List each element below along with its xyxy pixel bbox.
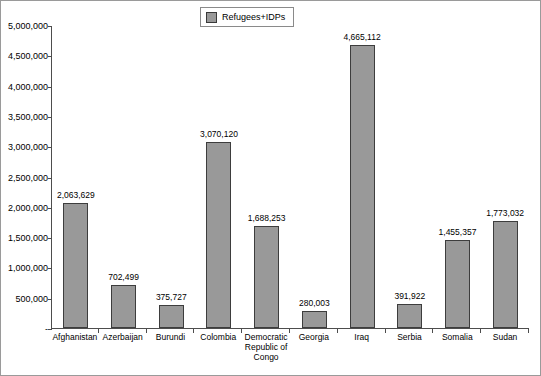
legend-label-refugees-idps: Refugees+IDPs <box>222 12 285 22</box>
bar[interactable] <box>493 221 518 328</box>
bar-slot: 702,499 <box>100 26 148 328</box>
bar-value-label: 1,773,032 <box>486 208 524 218</box>
bar-slot: 2,063,629 <box>52 26 100 328</box>
y-axis-tick-label: 2,500,000 <box>8 173 52 183</box>
bar-slot: 1,773,032 <box>481 26 529 328</box>
bar-slot: 375,727 <box>147 26 195 328</box>
y-axis-tick-label: 4,500,000 <box>8 51 52 61</box>
x-axis-tick-label: Colombia <box>194 332 242 362</box>
x-axis-tick-label: Sudan <box>481 332 529 362</box>
bar-slot: 1,688,253 <box>243 26 291 328</box>
bar-value-label: 2,063,629 <box>57 190 95 200</box>
x-axis-tick-label: Somalia <box>433 332 481 362</box>
bar-value-label: 1,688,253 <box>248 213 286 223</box>
x-axis-labels: AfghanistanAzerbaijanBurundiColombiaDemo… <box>51 332 529 362</box>
bar-slot: 280,003 <box>291 26 339 328</box>
x-axis-tick-label: Afghanistan <box>51 332 99 362</box>
y-axis-tick-label: 5,000,000 <box>8 21 52 31</box>
bar[interactable] <box>111 285 136 328</box>
y-axis-tick-label: 1,000,000 <box>8 263 52 273</box>
bar-slot: 391,922 <box>386 26 434 328</box>
bar-value-label: 4,665,112 <box>343 32 380 42</box>
y-axis-tick-label: 4,000,000 <box>8 82 52 92</box>
legend-swatch-refugees-idps <box>206 12 217 23</box>
bar[interactable] <box>159 305 184 328</box>
bar-value-label: 3,070,120 <box>200 129 238 139</box>
bar[interactable] <box>63 203 88 328</box>
bar-value-label: 375,727 <box>156 292 187 302</box>
chart-legend: Refugees+IDPs <box>200 7 294 27</box>
x-axis-tick-label: Burundi <box>147 332 195 362</box>
y-axis-tick-label: 1,500,000 <box>8 233 52 243</box>
x-axis-tick-label: Democratic Republic of Congo <box>242 332 290 362</box>
x-axis-tick-label: Iraq <box>338 332 386 362</box>
bar-slot: 4,665,112 <box>338 26 386 328</box>
bar-series-refugees-idps: 2,063,629702,499375,7273,070,1201,688,25… <box>52 26 529 328</box>
y-axis-tick-label: 3,000,000 <box>8 142 52 152</box>
y-axis-tick-label: 500,000 <box>15 294 52 304</box>
bar-value-label: 391,922 <box>394 291 425 301</box>
bar[interactable] <box>397 304 422 328</box>
x-axis-tick-label: Azerbaijan <box>99 332 147 362</box>
chart-container: Refugees+IDPs 5,000,0004,500,0004,000,00… <box>0 0 541 376</box>
plot-area: 5,000,0004,500,0004,000,0003,500,0003,00… <box>51 26 529 329</box>
x-axis-tick-label: Serbia <box>386 332 434 362</box>
bar[interactable] <box>254 226 279 328</box>
bar-slot: 3,070,120 <box>195 26 243 328</box>
bar-value-label: 280,003 <box>299 298 330 308</box>
bar-value-label: 1,455,357 <box>439 227 477 237</box>
y-axis-tick-label: 2,000,000 <box>8 203 52 213</box>
bar[interactable] <box>206 142 231 328</box>
bar[interactable] <box>302 311 327 328</box>
y-axis-tick-label: 3,500,000 <box>8 112 52 122</box>
bar-slot: 1,455,357 <box>434 26 482 328</box>
bar[interactable] <box>445 240 470 328</box>
bar[interactable] <box>350 45 375 328</box>
x-axis-tick-label: Georgia <box>290 332 338 362</box>
bar-value-label: 702,499 <box>108 272 139 282</box>
